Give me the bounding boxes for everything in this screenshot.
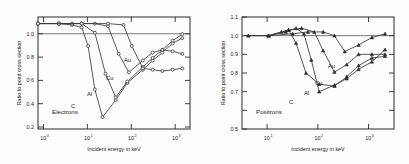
data-point-au [141, 67, 144, 70]
series-line-c [248, 30, 385, 86]
x-axis-label: Incident energy in keV [87, 146, 141, 152]
y-tick-label: 0.6 [27, 77, 35, 83]
data-point-au [80, 22, 83, 25]
series-label-cu: Cu [106, 75, 113, 81]
series-label-al: Al [304, 90, 309, 96]
data-point-au [171, 68, 174, 71]
y-tick-label: 0.2 [27, 124, 35, 130]
x-tick-exponent: 3 [179, 134, 181, 138]
data-point-al [171, 39, 174, 42]
data-point-al [181, 33, 184, 36]
y-axis-tick-labels: 1.1 1.0 0.9 0.8 0.7 0.5 [231, 14, 239, 132]
x-tick-label: 10 [172, 135, 178, 141]
data-point-cu [333, 70, 336, 73]
data-point-au [161, 70, 164, 73]
series-label-c: C [71, 103, 75, 109]
series-inline-labels: C Al Cu Au [71, 57, 131, 109]
y-tick-label: 1.1 [231, 14, 239, 20]
data-point-c [87, 44, 90, 47]
x-axis-tick-labels: 10 1 10 2 10 3 [264, 134, 374, 141]
series-label-au: Au [124, 57, 131, 63]
x-tick-label: 10 [365, 135, 371, 141]
data-point-au [122, 23, 125, 26]
series-line-au [268, 32, 385, 52]
panel-positrons: 1.1 1.0 0.9 0.8 0.7 0.5 10 1 10 2 [204, 0, 408, 164]
data-point-au [151, 68, 154, 71]
data-point-cu [171, 50, 174, 53]
data-point-c [294, 41, 297, 44]
x-tick-exponent: 2 [135, 134, 137, 138]
data-point-cu [117, 52, 120, 55]
x-tick-exponent: 1 [91, 134, 93, 138]
series-line-cu [268, 28, 385, 72]
x-tick-label: 10 [128, 135, 134, 141]
data-point-cu [127, 71, 130, 74]
y-tick-label: 1.0 [231, 33, 239, 39]
series-label-al: Al [87, 91, 92, 97]
data-point-cu [181, 52, 184, 55]
data-point-al [126, 80, 129, 83]
data-point-cu [321, 49, 324, 52]
data-point-al [357, 68, 360, 71]
series-line-al [38, 24, 182, 98]
data-point-au [357, 43, 360, 46]
x-axis-tick-labels: 10 0 10 1 10 2 10 3 [40, 134, 180, 141]
data-point-au [383, 32, 386, 35]
data-point-c [80, 26, 83, 29]
data-point-al [310, 58, 313, 61]
x-axis-label: Incident energy in keV [291, 146, 345, 152]
data-point-al [383, 48, 386, 51]
series-label-c: C [289, 99, 293, 105]
x-tick-label: 10 [40, 135, 46, 141]
data-point-c [357, 64, 360, 67]
y-axis-label: Ratio to point cross section [16, 41, 22, 106]
data-point-cu [151, 51, 154, 54]
x-tick-exponent: 0 [47, 134, 49, 138]
y-tick-label: 1.0 [27, 31, 35, 37]
data-point-au [130, 44, 133, 47]
data-point-au [181, 67, 184, 70]
panel-electrons: 1.0 0.8 0.6 0.4 0.2 10 0 10 [0, 0, 204, 164]
series-inline-labels: C Al Cu Au [289, 63, 335, 105]
panel-label-electrons: Electrons [52, 108, 78, 115]
y-tick-label: 0.4 [27, 101, 35, 107]
series-label-cu: Cu [315, 80, 322, 86]
panel-label-positrons: Positrons [256, 108, 282, 115]
positrons-plot: 1.1 1.0 0.9 0.8 0.7 0.5 10 1 10 2 [204, 0, 408, 164]
y-tick-label: 0.5 [231, 126, 239, 132]
y-axis-label: Ratio to point cross section [220, 41, 226, 106]
figure-container: 1.0 0.8 0.6 0.4 0.2 10 0 10 [0, 0, 409, 164]
electrons-plot: 1.0 0.8 0.6 0.4 0.2 10 0 10 [0, 0, 204, 164]
data-point-al [151, 56, 154, 59]
data-point-cu [141, 59, 144, 62]
data-point-c [304, 71, 307, 74]
series-label-au: Au [328, 63, 335, 69]
data-point-c [93, 88, 96, 91]
data-point-cu [161, 48, 164, 51]
x-tick-label: 10 [264, 135, 270, 141]
y-tick-label: 0.9 [231, 51, 239, 57]
x-tick-label: 10 [315, 135, 321, 141]
y-tick-label: 0.8 [27, 54, 35, 60]
x-tick-exponent: 2 [321, 134, 323, 138]
data-point-au [37, 22, 40, 25]
data-point-au [107, 22, 110, 25]
x-tick-label: 10 [84, 135, 90, 141]
y-tick-label: 0.8 [231, 70, 239, 76]
series-line-cu [38, 24, 182, 73]
data-point-c [181, 37, 184, 40]
y-axis-tick-labels: 1.0 0.8 0.6 0.4 0.2 [27, 31, 35, 130]
x-tick-exponent: 3 [372, 134, 374, 138]
data-point-al [93, 31, 96, 34]
data-point-c [101, 116, 104, 119]
data-point-al [114, 96, 117, 99]
series-group-electrons [37, 22, 184, 119]
y-tick-label: 0.7 [231, 89, 239, 95]
x-tick-exponent: 1 [270, 134, 272, 138]
